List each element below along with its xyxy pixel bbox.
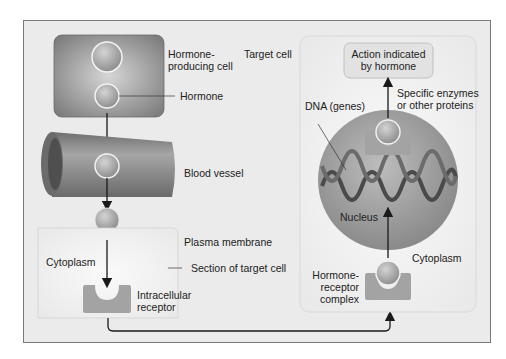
label-line: receptor [137, 301, 191, 313]
label-intracellular-receptor: Intracellular receptor [137, 289, 191, 313]
label-line: Hormone- [168, 48, 233, 60]
blood-vessel [41, 132, 175, 197]
hormone-producing-cell [54, 35, 175, 117]
label-cytoplasm-left: Cytoplasm [46, 256, 96, 268]
label-line: receptor [311, 281, 359, 293]
label-line: Hormone- [311, 269, 359, 281]
label-hormone: Hormone [180, 90, 223, 102]
label-line: Intracellular [137, 289, 191, 301]
label-cytoplasm-right: Cytoplasm [412, 252, 462, 264]
label-line: Specific enzymes [397, 87, 479, 99]
label-nucleus: Nucleus [340, 211, 378, 223]
label-target-cell: Target cell [244, 48, 292, 60]
label-section-of-target-cell: Section of target cell [191, 262, 286, 274]
label-line: by hormone [344, 60, 433, 72]
label-line: Action indicated [344, 48, 433, 60]
label-line: producing cell [168, 60, 233, 72]
label-line: complex [311, 293, 359, 305]
label-blood-vessel: Blood vessel [184, 167, 244, 179]
label-line: or other proteins [397, 99, 479, 111]
label-action-indicated: Action indicated by hormone [344, 48, 433, 72]
label-hormone-producing-cell: Hormone- producing cell [168, 48, 233, 72]
label-specific-enzymes: Specific enzymes or other proteins [397, 87, 479, 111]
label-hormone-receptor-complex: Hormone- receptor complex [311, 269, 359, 305]
label-plasma-membrane: Plasma membrane [184, 236, 272, 248]
label-dna: DNA (genes) [305, 100, 365, 112]
